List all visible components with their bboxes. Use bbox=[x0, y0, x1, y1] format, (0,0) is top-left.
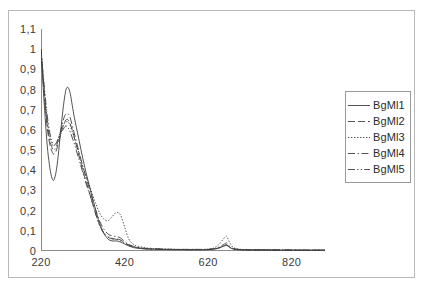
y-tick-label: 0,7 bbox=[20, 104, 36, 116]
series-line-BgMl1 bbox=[41, 49, 325, 250]
chart-figure: 1,110,90,80,70,60,50,40,30,20,10 2204206… bbox=[8, 10, 415, 278]
legend-item-BgMl3[interactable]: BgMl3 bbox=[348, 129, 407, 145]
x-tick-label: 620 bbox=[199, 256, 218, 268]
legend-item-label: BgMl2 bbox=[373, 115, 405, 127]
series-line-BgMl2 bbox=[41, 49, 325, 250]
legend-line-swatch-icon bbox=[348, 99, 370, 111]
legend-line-swatch-icon bbox=[348, 115, 370, 127]
legend-item-BgMl2[interactable]: BgMl2 bbox=[348, 113, 407, 129]
legend-item-label: BgMl5 bbox=[373, 163, 405, 175]
series-line-BgMl5 bbox=[41, 49, 325, 250]
y-tick-label: 0,1 bbox=[20, 225, 36, 237]
x-tick-label: 820 bbox=[282, 256, 301, 268]
legend-line-swatch-icon bbox=[348, 147, 370, 159]
y-tick-label: 0,4 bbox=[20, 164, 36, 176]
series-group bbox=[41, 49, 325, 250]
legend-item-label: BgMl3 bbox=[373, 131, 405, 143]
legend-line-swatch-icon bbox=[348, 163, 370, 175]
chart-legend: BgMl1BgMl2BgMl3BgMl4BgMl5 bbox=[345, 91, 411, 183]
legend-line-swatch-icon bbox=[348, 131, 370, 143]
x-tick-label: 420 bbox=[115, 256, 134, 268]
axis-lines bbox=[41, 29, 325, 251]
legend-item-BgMl4[interactable]: BgMl4 bbox=[348, 145, 407, 161]
y-tick-label: 1 bbox=[30, 43, 36, 55]
y-tick-label: 0,8 bbox=[20, 84, 36, 96]
y-tick-label: 1,1 bbox=[20, 23, 36, 35]
plot-area bbox=[41, 29, 325, 251]
y-tick-label: 0,5 bbox=[20, 144, 36, 156]
y-tick-label: 0,9 bbox=[20, 63, 36, 75]
series-line-BgMl3 bbox=[41, 49, 325, 250]
legend-item-label: BgMl4 bbox=[373, 147, 405, 159]
legend-item-BgMl5[interactable]: BgMl5 bbox=[348, 161, 407, 177]
legend-item-BgMl1[interactable]: BgMl1 bbox=[348, 97, 407, 113]
y-tick-label: 0,3 bbox=[20, 184, 36, 196]
x-tick-label: 220 bbox=[32, 256, 51, 268]
legend-item-label: BgMl1 bbox=[373, 99, 405, 111]
series-line-BgMl4 bbox=[41, 49, 325, 250]
spectra-plot-svg bbox=[41, 29, 325, 251]
y-tick-label: 0,6 bbox=[20, 124, 36, 136]
plot-wrapper: 1,110,90,80,70,60,50,40,30,20,10 2204206… bbox=[41, 29, 325, 251]
y-tick-label: 0,2 bbox=[20, 205, 36, 217]
